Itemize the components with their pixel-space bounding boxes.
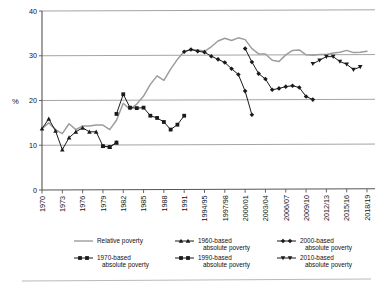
- x-tick-label: 2015/16: [342, 195, 351, 221]
- legend-label: 1970-based: [97, 254, 131, 261]
- data-point-marker: [162, 120, 166, 124]
- data-point-marker: [155, 116, 159, 120]
- x-tick-label: 2018/19: [363, 195, 372, 221]
- data-point-marker: [78, 256, 82, 260]
- data-point-marker: [179, 256, 183, 260]
- x-tick-label: 1970: [38, 196, 47, 212]
- x-tick-label: 1994/95: [200, 195, 209, 221]
- x-tick-label: 1973: [58, 196, 67, 212]
- legend-label: 1960-based: [198, 237, 232, 244]
- y-tick-label: 10: [29, 141, 37, 150]
- x-tick-label: 1976: [78, 196, 87, 212]
- data-point-marker: [121, 92, 125, 96]
- legend-label: Relative poverty: [97, 237, 144, 245]
- legend-label: 2000-based: [300, 237, 334, 244]
- poverty-line-chart: 010203040 197019731976197919821985198819…: [0, 0, 381, 290]
- data-point-marker: [186, 256, 190, 260]
- x-tick-label: 2000/01: [241, 195, 250, 221]
- data-point-marker: [115, 141, 119, 145]
- x-tick-label: 2012/13: [322, 195, 331, 221]
- x-tick-label: 2006/07: [282, 195, 291, 221]
- data-point-marker: [176, 123, 180, 127]
- data-point-marker: [182, 114, 186, 118]
- chart-canvas: 010203040 197019731976197919821985198819…: [0, 0, 381, 290]
- x-tick-label: 1985: [139, 196, 148, 212]
- x-tick-label: 1997/98: [221, 195, 230, 221]
- data-point-marker: [142, 106, 146, 110]
- legend-label: 1990-based: [198, 254, 232, 261]
- legend-label-second-line: absolute poverty: [203, 244, 251, 252]
- data-point-marker: [135, 106, 139, 110]
- data-point-marker: [169, 128, 173, 132]
- x-tick-label: 1991: [180, 195, 189, 211]
- legend-label-second-line: absolute poverty: [305, 244, 353, 252]
- data-point-marker: [108, 145, 112, 149]
- data-point-marker: [85, 256, 89, 260]
- data-point-marker: [101, 144, 105, 148]
- x-tick-label: 1979: [99, 196, 108, 212]
- y-tick-label: 40: [29, 7, 37, 16]
- x-tick-label: 1988: [160, 196, 169, 212]
- legend-label-second-line: absolute poverty: [203, 261, 251, 269]
- x-tick-label: 2009/10: [302, 195, 311, 221]
- legend-label-second-line: absolute poverty: [305, 261, 353, 269]
- x-tick-label: 1982: [119, 196, 128, 212]
- legend-label-second-line: absolute poverty: [102, 261, 150, 269]
- y-tick-label: 0: [33, 186, 37, 195]
- y-tick-label: 20: [29, 96, 37, 105]
- x-tick-label: 2003/04: [261, 195, 270, 221]
- legend-label: 2010-based: [300, 254, 334, 261]
- data-point-marker: [128, 106, 132, 110]
- data-point-marker: [148, 114, 152, 118]
- data-point-marker: [115, 112, 119, 116]
- y-axis-label: %: [12, 97, 19, 106]
- y-tick-label: 30: [29, 51, 37, 60]
